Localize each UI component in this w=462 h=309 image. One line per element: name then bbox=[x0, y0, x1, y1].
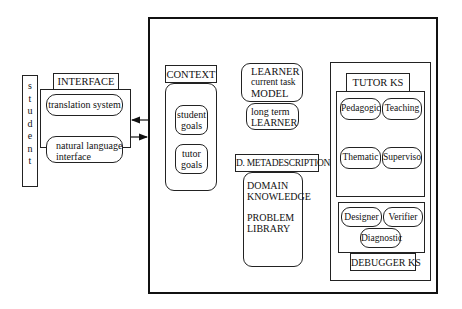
debugger-ks-title: DEBUGGER KS bbox=[350, 253, 416, 271]
student-box: s t u d e n t bbox=[22, 75, 38, 187]
student-letter: n bbox=[23, 143, 37, 156]
tutor-ks-supervisor: Supervisor bbox=[382, 147, 422, 169]
debugger-ks-verifier: Verifier bbox=[383, 207, 423, 227]
student-letter: e bbox=[23, 130, 37, 143]
long-term-line2: LEARNER bbox=[251, 117, 298, 128]
learner-line1: LEARNER bbox=[251, 66, 302, 77]
context-box bbox=[165, 83, 217, 191]
tutor-ks-teaching: Teaching bbox=[382, 98, 422, 120]
designer-label: Designer bbox=[344, 212, 378, 222]
tutor-ks-title: TUTOR KS bbox=[346, 73, 410, 92]
context-title: CONTEXT bbox=[165, 65, 217, 83]
pedagogic-label: Pedagogic bbox=[341, 103, 381, 113]
verifier-label: Verifier bbox=[388, 212, 417, 222]
tutor-goals-line1: tutor bbox=[176, 148, 207, 159]
diagnostic-label: Diagnostic bbox=[361, 233, 402, 243]
metadescription-title: D. METADESCRIPTION bbox=[235, 154, 319, 172]
library-label: LIBRARY bbox=[247, 223, 302, 234]
learner-model-box: LEARNER current task MODEL bbox=[241, 63, 303, 102]
tutor-ks-thematic: Thematic bbox=[340, 147, 381, 169]
supervisor-label: Supervisor bbox=[383, 152, 422, 162]
interface-label: interface bbox=[56, 151, 122, 162]
long-term-line1: long term bbox=[251, 106, 298, 117]
problem-label: PROBLEM bbox=[247, 212, 302, 223]
student-letter: t bbox=[23, 155, 37, 168]
student-goals-line2: goals bbox=[176, 120, 207, 131]
natural-language-label: natural language bbox=[56, 140, 122, 151]
debugger-ks-diagnostic: Diagnostic bbox=[360, 228, 401, 248]
domain-knowledge-box: DOMAIN KNOWLEDGE PROBLEM LIBRARY bbox=[243, 172, 303, 267]
tutor-goals-line2: goals bbox=[176, 159, 207, 170]
learner-line3: MODEL bbox=[251, 88, 302, 99]
long-term-learner-box: long term LEARNER bbox=[246, 103, 299, 130]
translation-system-label: translation system bbox=[48, 99, 121, 110]
student-letter: s bbox=[23, 80, 37, 93]
context-item-student-goals: student goals bbox=[175, 105, 208, 135]
student-letter: d bbox=[23, 118, 37, 131]
context-item-tutor-goals: tutor goals bbox=[175, 144, 208, 174]
knowledge-label: KNOWLEDGE bbox=[247, 191, 302, 202]
tutor-ks-pedagogic: Pedagogic bbox=[340, 98, 381, 120]
debugger-ks-designer: Designer bbox=[341, 207, 382, 227]
interface-item-translation-system: translation system bbox=[46, 94, 123, 116]
learner-line2: current task bbox=[251, 77, 302, 88]
student-letter: t bbox=[23, 93, 37, 106]
student-letter: u bbox=[23, 105, 37, 118]
domain-label: DOMAIN bbox=[247, 180, 302, 191]
teaching-label: Teaching bbox=[385, 103, 420, 113]
interface-item-natural-language: natural language interface bbox=[46, 136, 123, 163]
thematic-label: Thematic bbox=[343, 152, 379, 162]
interface-title: INTERFACE bbox=[53, 73, 119, 90]
student-goals-line1: student bbox=[176, 109, 207, 120]
